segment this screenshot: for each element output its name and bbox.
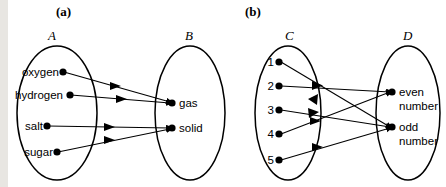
node-3[interactable] (275, 106, 282, 113)
label-hydrogen: hydrogen (15, 89, 63, 101)
arrow-1-odd (281, 62, 390, 127)
label-odd-number-line2: number (399, 135, 438, 147)
node-even-number[interactable] (388, 88, 395, 95)
arrow-2-even (281, 86, 390, 92)
arrow-5-odd (281, 128, 390, 160)
label-2: 2 (268, 80, 274, 92)
node-2[interactable] (275, 82, 282, 89)
node-odd-number[interactable] (388, 123, 395, 130)
set-label-a: A (47, 28, 56, 43)
arrowhead-hydrogen-gas (116, 95, 127, 103)
label-salt: salt (25, 120, 44, 132)
node-5[interactable] (275, 156, 282, 163)
panel-label-b: (b) (245, 4, 261, 19)
label-even-number-line2: number (399, 100, 438, 112)
label-oxygen: oxygen (22, 66, 59, 78)
arrowhead-4-even (308, 94, 318, 105)
figure-canvas: oxygen (a) A B oxygen hydrogen salt (0, 0, 446, 187)
label-gas: gas (179, 97, 198, 109)
node-4[interactable] (275, 130, 282, 137)
arrowhead-3-odd (310, 117, 321, 125)
label-5: 5 (268, 154, 274, 166)
ellipse-set-d (376, 46, 440, 180)
set-label-c: C (285, 28, 294, 43)
label-1: 1 (268, 56, 274, 68)
set-label-d: D (402, 28, 413, 43)
node-gas[interactable] (168, 99, 175, 106)
label-even-number-line1: even (399, 86, 424, 98)
set-mapping-diagram: oxygen (a) A B oxygen hydrogen salt (0, 0, 446, 187)
label-odd-number-line1: odd (399, 121, 418, 133)
arrowhead-sugar-solid (104, 136, 115, 144)
arrow-sugar-solid (58, 129, 170, 152)
ellipse-set-b (155, 46, 225, 180)
label-3: 3 (268, 104, 274, 116)
arrowhead-salt-solid (104, 123, 115, 131)
label-solid: solid (179, 122, 203, 134)
set-label-b: B (185, 28, 193, 43)
node-solid[interactable] (168, 124, 175, 131)
panel-label-a: (a) (56, 4, 71, 19)
label-sugar: sugar (24, 146, 53, 158)
node-sugar[interactable] (53, 148, 60, 155)
node-hydrogen[interactable] (66, 91, 73, 98)
arrowhead-1-odd (308, 108, 319, 118)
label-4: 4 (268, 128, 275, 140)
node-oxygen[interactable] (59, 68, 66, 75)
node-salt[interactable] (43, 122, 50, 129)
arrowhead-oxygen-gas (110, 82, 121, 90)
node-1[interactable] (275, 58, 282, 65)
